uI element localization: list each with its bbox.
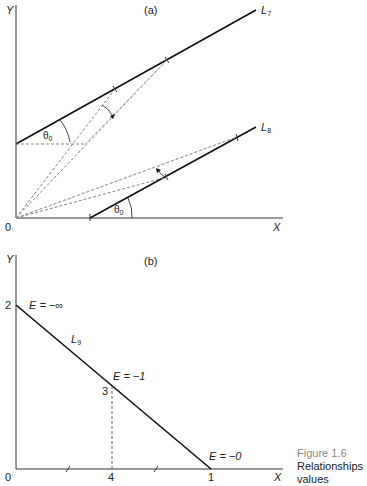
b-y-axis-label: Y [6, 254, 13, 265]
b-x-axis-label: X [274, 472, 281, 483]
a-origin-label: 0 [5, 222, 11, 233]
e-top-label: E = −∞ [29, 300, 63, 311]
mid-x-label: 4 [108, 472, 114, 483]
line-l9 [16, 305, 211, 469]
b-panel-label: (b) [144, 256, 157, 267]
caption-line-2: values [297, 473, 363, 486]
figure-number: Figure 1.6 [297, 447, 363, 460]
e-mid-label: E = −1 [113, 371, 145, 382]
caption-line-1: Relationships [297, 460, 363, 473]
e-bottom-label: E = −0 [209, 451, 241, 462]
theta-bottom-label: θ0 [114, 205, 123, 216]
l8-label: L8 [261, 122, 271, 134]
mid-point-label: 3 [102, 386, 108, 397]
l9-label: L9 [71, 334, 81, 346]
a-y-axis-label: Y [6, 5, 13, 16]
b-origin-label: 0 [5, 472, 11, 483]
a-x-axis-label: X [273, 222, 280, 233]
x-intercept-label: 1 [208, 472, 214, 483]
y-intercept-label: 2 [5, 300, 11, 311]
figure-caption: Figure 1.6 Relationships values [297, 447, 363, 486]
line-l7 [16, 10, 256, 144]
a-panel-label: (a) [144, 5, 157, 16]
l7-label: L7 [261, 5, 271, 17]
theta-top-label: θ0 [43, 131, 52, 142]
